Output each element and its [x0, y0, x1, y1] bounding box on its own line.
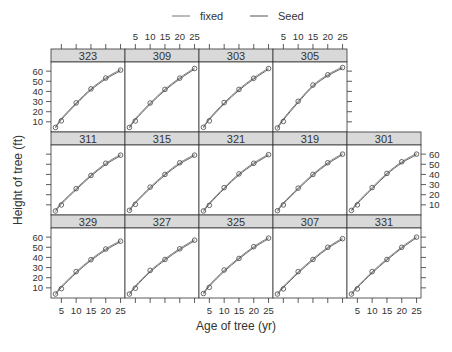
strip-label: 307 — [301, 216, 319, 228]
strip-label: 321 — [227, 133, 245, 145]
y-tick-label: 40 — [32, 252, 43, 263]
strip-label: 319 — [301, 133, 319, 145]
x-tick-label: 15 — [86, 305, 97, 316]
panel-315: 315 — [125, 132, 199, 215]
y-tick-label: 50 — [429, 159, 440, 170]
panel-309: 309 — [125, 49, 199, 132]
plot-area — [273, 145, 347, 215]
panel-303: 303 — [199, 49, 273, 132]
x-tick-label: 25 — [115, 305, 126, 316]
strip-label: 309 — [153, 50, 171, 62]
y-tick-label: 20 — [32, 272, 43, 283]
plot-area — [51, 145, 125, 215]
x-tick-label: 25 — [337, 31, 348, 42]
plot-area — [273, 62, 347, 132]
x-tick-label: 10 — [293, 31, 304, 42]
strip-label: 325 — [227, 216, 245, 228]
y-axis-label: Height of tree (ft) — [11, 135, 25, 225]
y-tick-label: 30 — [32, 262, 43, 273]
x-tick-label: 5 — [281, 31, 286, 42]
panel-305: 305 — [273, 49, 347, 132]
y-tick-label: 60 — [429, 149, 440, 160]
strip-label: 323 — [79, 50, 97, 62]
x-tick-label: 10 — [145, 31, 156, 42]
panel-301: 301 — [347, 132, 421, 215]
panel-311: 311 — [51, 132, 125, 215]
plot-area — [199, 228, 273, 298]
panel-325: 325 — [199, 215, 273, 298]
legend-label-seed: Seed — [278, 10, 304, 22]
x-tick-label: 20 — [396, 305, 407, 316]
x-tick-label: 5 — [133, 31, 138, 42]
x-tick-label: 20 — [248, 305, 259, 316]
x-tick-label: 15 — [382, 305, 393, 316]
y-tick-label: 40 — [429, 169, 440, 180]
strip-label: 329 — [79, 216, 97, 228]
y-tick-label: 10 — [32, 282, 43, 293]
x-tick-label: 15 — [308, 31, 319, 42]
y-tick-label: 20 — [429, 189, 440, 200]
panel-323: 323 — [51, 49, 125, 132]
plot-area — [125, 228, 199, 298]
x-tick-label: 10 — [71, 305, 82, 316]
panel-307: 307 — [273, 215, 347, 298]
plot-area — [199, 145, 273, 215]
panel-331: 331 — [347, 215, 421, 298]
x-tick-label: 10 — [219, 305, 230, 316]
strip-label: 331 — [375, 216, 393, 228]
strip-label: 303 — [227, 50, 245, 62]
lattice-chart: fixedSeed 323309303305311315321319301329… — [0, 0, 452, 352]
y-tick-label: 50 — [32, 76, 43, 87]
panel-grid: 3233093033053113153213193013293273253073… — [51, 49, 421, 298]
plot-area — [347, 145, 421, 215]
panel-321: 321 — [199, 132, 273, 215]
strip-label: 301 — [375, 133, 393, 145]
x-tick-label: 10 — [367, 305, 378, 316]
legend: fixedSeed — [172, 10, 304, 22]
x-tick-label: 25 — [411, 305, 422, 316]
y-tick-label: 50 — [32, 242, 43, 253]
x-tick-label: 5 — [355, 305, 360, 316]
strip-label: 315 — [153, 133, 171, 145]
panel-329: 329 — [51, 215, 125, 298]
x-tick-label: 25 — [263, 305, 274, 316]
y-tick-label: 60 — [32, 66, 43, 77]
y-tick-label: 30 — [429, 179, 440, 190]
x-tick-label: 15 — [160, 31, 171, 42]
panel-319: 319 — [273, 132, 347, 215]
x-tick-label: 20 — [322, 31, 333, 42]
x-tick-label: 20 — [174, 31, 185, 42]
strip-label: 305 — [301, 50, 319, 62]
y-tick-label: 20 — [32, 106, 43, 117]
x-axis-label: Age of tree (yr) — [196, 319, 276, 333]
strip-label: 327 — [153, 216, 171, 228]
y-tick-label: 40 — [32, 86, 43, 97]
x-tick-label: 5 — [207, 305, 212, 316]
x-tick-label: 5 — [59, 305, 64, 316]
strip-label: 311 — [79, 133, 97, 145]
legend-label-fixed: fixed — [200, 10, 223, 22]
x-tick-label: 20 — [100, 305, 111, 316]
plot-area — [51, 62, 125, 132]
panel-327: 327 — [125, 215, 199, 298]
plot-area — [125, 145, 199, 215]
y-tick-label: 60 — [32, 232, 43, 243]
x-tick-label: 15 — [234, 305, 245, 316]
y-tick-label: 30 — [32, 96, 43, 107]
x-tick-label: 25 — [189, 31, 200, 42]
y-tick-label: 10 — [429, 199, 440, 210]
y-tick-label: 10 — [32, 116, 43, 127]
